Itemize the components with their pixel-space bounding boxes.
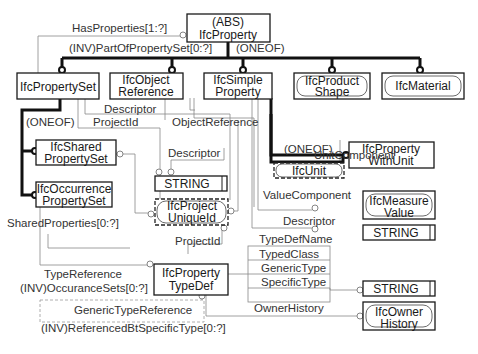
- label-generic-type: GenericType: [261, 262, 326, 274]
- entity-label: Reference: [118, 85, 174, 99]
- label-part-of-property-set: (INV)PartOfPropertySet[0:?]: [69, 42, 212, 54]
- label-type-def-name: TypeDefName: [259, 233, 333, 245]
- label-unit-component: UnitComponent: [314, 149, 395, 161]
- entity-label: Shape: [315, 85, 350, 99]
- entity-ifc-property-set[interactable]: IfcPropertySet: [17, 73, 99, 99]
- label-object-reference: ObjectReference: [172, 116, 258, 128]
- entity-label: (ABS): [212, 15, 244, 29]
- entity-ifc-project-unique-id[interactable]: IfcProject UniqueId: [155, 199, 228, 225]
- entity-ifc-object-reference[interactable]: IfcObject Reference: [110, 73, 183, 99]
- label-descriptor-objref: Descriptor: [104, 103, 157, 115]
- entity-label: PropertySet: [42, 194, 106, 208]
- entity-label: STRING: [164, 177, 209, 191]
- entity-string-2[interactable]: STRING: [363, 225, 435, 240]
- entity-label: STRING: [373, 282, 418, 296]
- label-typed-class: TypedClass: [259, 248, 319, 260]
- label-specific-type: SpecificType: [261, 276, 326, 288]
- entity-string-1[interactable]: STRING: [155, 176, 227, 191]
- label-descriptor-simple: Descriptor: [283, 215, 336, 227]
- label-has-properties: HasProperties[1:?]: [72, 22, 167, 34]
- entity-ifc-property-type-def[interactable]: IfcProperty TypeDef: [154, 264, 228, 295]
- label-owner-history: OwnerHistory: [254, 302, 324, 314]
- label-referenced-by-specific-type: (INV)ReferencedBtSpecificType[0:?]: [41, 322, 226, 334]
- entity-label: PropertySet: [44, 152, 108, 166]
- entity-label: IfcProperty: [199, 28, 257, 42]
- entity-label: IfcProperty: [162, 266, 220, 280]
- label-project-id-set: ProjectId: [93, 116, 138, 128]
- entity-string-3[interactable]: STRING: [363, 281, 435, 296]
- entity-ifc-shared-property-set[interactable]: IfcShared PropertySet: [36, 140, 116, 166]
- entity-label: Property: [215, 85, 260, 99]
- entity-label: History: [380, 317, 417, 331]
- entity-ifc-material[interactable]: IfcMaterial: [382, 73, 464, 99]
- label-project-id-typedef: ProjectId: [175, 235, 220, 247]
- entity-label: UniqueId: [168, 211, 216, 225]
- label-descriptor-string: Descriptor: [168, 147, 221, 159]
- entity-ifc-measure-value[interactable]: IfcMeasure Value: [363, 191, 435, 220]
- entity-label: IfcUnit: [292, 164, 327, 178]
- label-generic-type-reference: GenericTypeReference: [74, 304, 192, 316]
- label-value-component: ValueComponent: [263, 189, 352, 201]
- label-shared-properties: SharedProperties[0:?]: [7, 217, 119, 229]
- entity-ifc-owner-history[interactable]: IfcOwner History: [363, 302, 435, 331]
- entity-label: IfcMaterial: [395, 79, 450, 93]
- entity-ifc-product-shape[interactable]: IfcProduct Shape: [294, 73, 370, 99]
- entity-label: IfcPropertySet: [20, 80, 97, 94]
- express-g-diagram: (ABS) IfcProperty IfcPropertySet IfcObje…: [0, 0, 478, 354]
- entity-label: TypeDef: [169, 279, 214, 293]
- entity-ifc-occurrence-property-set[interactable]: IfcOccurrence PropertySet: [36, 182, 112, 208]
- entity-label: Value: [384, 206, 414, 220]
- label-oneof-top: (ONEOF): [236, 42, 285, 54]
- label-oneof-set: (ONEOF): [26, 116, 75, 128]
- label-type-reference: TypeReference: [44, 268, 122, 280]
- label-occurance-sets: (INV)OccuranceSets[0:?]: [20, 282, 148, 294]
- entity-label: STRING: [373, 226, 418, 240]
- entity-ifc-unit[interactable]: IfcUnit: [274, 163, 344, 178]
- entity-ifc-simple-property[interactable]: IfcSimple Property: [204, 73, 272, 99]
- entity-ifc-property[interactable]: (ABS) IfcProperty: [187, 14, 270, 42]
